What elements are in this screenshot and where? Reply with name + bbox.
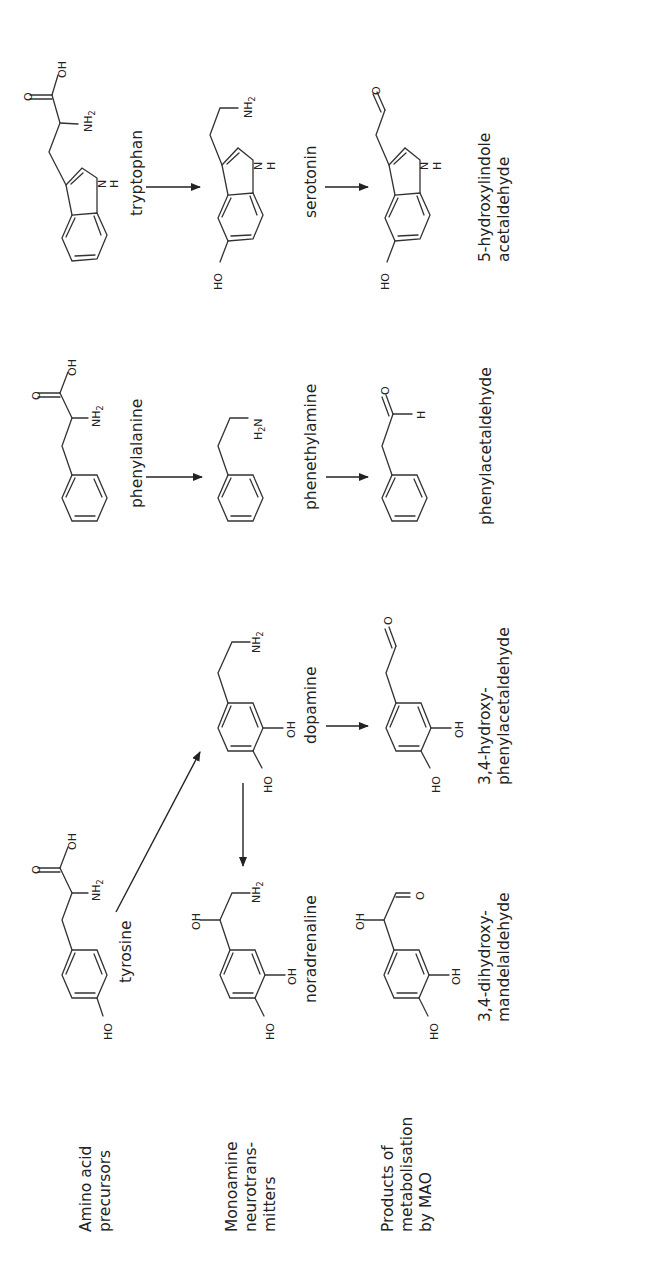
- svg-text:H: H: [265, 162, 278, 170]
- label-3-4-dihydroxymandelaldehyde: 3,4-dihydroxy- mandelaldehyde: [476, 892, 513, 1022]
- svg-text:mitters: mitters: [261, 1176, 279, 1232]
- svg-text:precursors: precursors: [96, 1150, 114, 1232]
- phenylalanine-structure: [38, 372, 107, 521]
- label-3-4-hydroxyphenylacetaldehyde: 3,4-hydroxy- phenylacetaldehyde: [476, 627, 513, 785]
- svg-text:NH2: NH2: [82, 110, 97, 132]
- svg-text:OH: OH: [285, 721, 298, 738]
- svg-text:NH2: NH2: [90, 405, 105, 427]
- monoamine-pathway-diagram: Amino acid precursors Monoamine neurotra…: [0, 0, 646, 1288]
- label-tyrosine: tyrosine: [117, 920, 135, 983]
- svg-text:O: O: [382, 616, 395, 625]
- svg-text:mandelaldehyde: mandelaldehyde: [495, 892, 513, 1022]
- svg-text:HO: HO: [379, 273, 392, 290]
- tryptophan-structure: [30, 75, 107, 261]
- dopamine-structure: [218, 642, 283, 768]
- svg-text:N: N: [418, 162, 431, 170]
- svg-text:NH2: NH2: [90, 879, 105, 901]
- svg-text:H: H: [108, 180, 121, 188]
- hydroxyindole-acetaldehyde-structure: [373, 92, 430, 262]
- dopal-structure: [385, 627, 451, 768]
- svg-text:HO: HO: [102, 1023, 115, 1040]
- svg-text:neurotrans-: neurotrans-: [242, 1142, 260, 1232]
- svg-text:HO: HO: [430, 776, 443, 793]
- label-phenethylamine: phenethylamine: [302, 384, 320, 510]
- svg-text:O: O: [379, 386, 392, 395]
- svg-text:O: O: [30, 865, 43, 874]
- svg-text:OH: OH: [453, 721, 466, 738]
- svg-text:OH: OH: [66, 359, 79, 376]
- noradrenaline-structure: [200, 893, 285, 1016]
- tyrosine-structure: [38, 847, 107, 1016]
- svg-text:O: O: [22, 92, 35, 101]
- svg-text:Amino acid: Amino acid: [77, 1146, 95, 1232]
- svg-text:OH: OH: [450, 968, 463, 985]
- svg-text:H2N: H2N: [252, 418, 267, 440]
- svg-text:metabolisation: metabolisation: [398, 1117, 416, 1232]
- svg-text:OH: OH: [286, 968, 299, 985]
- row-label-amino-acid-precursors: Amino acid precursors: [77, 1146, 114, 1232]
- svg-text:H: H: [415, 411, 428, 419]
- svg-text:HO: HO: [262, 776, 275, 793]
- label-5-hydroxylindole-acetaldehyde: 5-hydroxylindole acetaldehyde: [476, 133, 513, 262]
- svg-text:3,4-hydroxy-: 3,4-hydroxy-: [476, 687, 494, 785]
- svg-text:5-hydroxylindole: 5-hydroxylindole: [476, 133, 494, 262]
- svg-text:HO: HO: [264, 1023, 277, 1040]
- label-tryptophan: tryptophan: [128, 130, 146, 216]
- row-label-products-of-metabolisation: Products of metabolisation by MAO: [379, 1117, 435, 1232]
- svg-text:O: O: [30, 391, 43, 400]
- svg-text:OH: OH: [190, 913, 203, 930]
- svg-text:N: N: [252, 162, 265, 170]
- label-dopamine: dopamine: [302, 667, 320, 744]
- arrow-tyrosine-to-dopamine: [116, 752, 200, 912]
- svg-text:HO: HO: [428, 1023, 441, 1040]
- svg-text:NH2: NH2: [250, 631, 265, 653]
- svg-text:OH: OH: [66, 833, 79, 850]
- svg-text:NH2: NH2: [250, 881, 265, 903]
- dopegal-structure: [364, 893, 449, 1016]
- svg-text:HO: HO: [212, 273, 225, 290]
- serotonin-structure: [210, 108, 263, 262]
- svg-text:phenylacetaldehyde: phenylacetaldehyde: [495, 627, 513, 785]
- svg-text:3,4-dihydroxy-: 3,4-dihydroxy-: [476, 910, 494, 1022]
- svg-text:OH: OH: [354, 913, 367, 930]
- label-phenylalanine: phenylalanine: [128, 399, 146, 508]
- label-phenylacetaldehyde: phenylacetaldehyde: [477, 367, 495, 525]
- svg-text:H: H: [431, 162, 444, 170]
- svg-text:acetaldehyde: acetaldehyde: [495, 157, 513, 262]
- svg-text:OH: OH: [56, 61, 69, 78]
- svg-text:NH2: NH2: [242, 96, 257, 118]
- svg-text:Products of: Products of: [379, 1145, 397, 1232]
- label-serotonin: serotonin: [302, 145, 320, 218]
- row-label-monoamine-neurotransmitters: Monoamine neurotrans- mitters: [223, 1142, 279, 1232]
- svg-text:O: O: [414, 891, 427, 900]
- svg-text:Monoamine: Monoamine: [223, 1142, 241, 1232]
- label-noradrenaline: noradrenaline: [302, 895, 320, 1003]
- svg-text:by MAO: by MAO: [417, 1172, 435, 1232]
- svg-text:O: O: [370, 86, 383, 95]
